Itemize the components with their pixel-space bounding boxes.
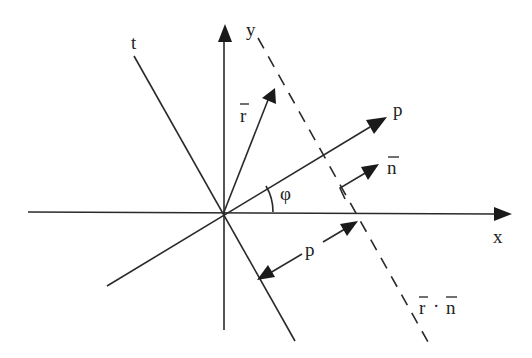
y-axis-arrowhead-icon — [218, 24, 232, 42]
svg-text:n: n — [446, 297, 456, 318]
svg-text:n: n — [387, 157, 397, 178]
x-axis-arrowhead-icon — [494, 207, 512, 221]
p-axis-arrowhead-icon — [366, 117, 387, 134]
svg-text:r: r — [240, 105, 247, 126]
p-distance-arrowhead-lower-icon — [257, 265, 275, 280]
y-axis — [218, 24, 232, 330]
normal-form-line-diagram: x y t p r n φ p r · n — [0, 0, 532, 358]
r-vector-label: r — [240, 104, 249, 126]
x-axis-label: x — [493, 226, 503, 247]
r-dot-n-label: r · n — [419, 295, 457, 318]
t-axis-label: t — [131, 32, 137, 53]
n-vector-arrowhead-icon — [361, 164, 379, 180]
n-vector-label: n — [387, 157, 399, 178]
svg-text:r: r — [419, 297, 426, 318]
r-vector-arrowhead-icon — [262, 88, 276, 104]
y-axis-label: y — [246, 19, 256, 40]
r-vector — [224, 88, 276, 212]
p-axis-label: p — [393, 99, 403, 120]
svg-text:·: · — [433, 295, 439, 316]
x-axis — [28, 207, 512, 221]
p-axis — [107, 117, 387, 286]
p-distance-arrowhead-upper-icon — [340, 221, 358, 236]
angle-phi-label: φ — [280, 183, 291, 204]
p-distance-label: p — [305, 239, 315, 260]
